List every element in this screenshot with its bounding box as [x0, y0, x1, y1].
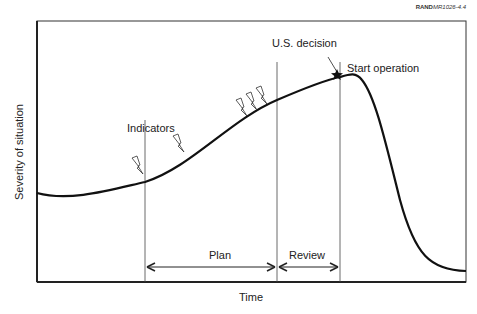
- us-decision-label: U.S. decision: [272, 37, 337, 49]
- plot-frame: [37, 21, 466, 282]
- x-axis-label: Time: [239, 291, 263, 303]
- start-operation-label: Start operation: [347, 62, 419, 74]
- indicators-label: Indicators: [127, 122, 175, 134]
- plan-label: Plan: [209, 249, 231, 261]
- y-axis-label: Severity of situation: [13, 97, 25, 207]
- review-label: Review: [289, 249, 325, 261]
- decision-pointer: [328, 57, 337, 72]
- severity-time-diagram: [0, 0, 477, 314]
